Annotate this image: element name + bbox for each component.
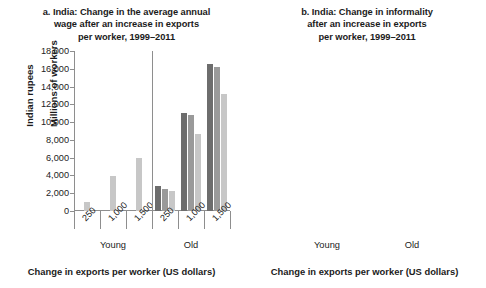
panel-b-y-axis-label: Millions of workers [48,26,59,142]
panel-a-y-tick [70,140,74,141]
panel-b-title-line-1: b. India: Change in informality [253,6,481,18]
bar-mid-old-1000 [188,115,194,211]
figure-container: a. India: Change in the average annual w… [0,0,486,288]
panel-a-group-label-old: Old [152,240,230,250]
panel-a-y-axis-line [74,51,75,211]
panel-a-y-tick-label: 2,000 [46,188,69,198]
panel-a-y-tick-label: 4,000 [46,170,69,180]
panel-a-y-axis-label: Indian rupees [24,41,35,151]
panel-a-y-tick [70,193,74,194]
chart-panel-a: a. India: Change in the average annual w… [0,0,243,288]
chart-panel-b: b. India: Change in informality after an… [243,0,486,288]
panel-a-title-line-1: a. India: Change in the average annual [14,6,239,18]
panel-a-y-tick [70,104,74,105]
panel-a-x-tick-end [230,211,231,229]
panel-b-group-label-young: Young [288,240,366,250]
panel-a-x-tick [100,211,101,229]
panel-a-x-tick [74,211,75,229]
panel-a-x-tick [126,211,127,229]
bar-light-young-1500 [136,158,142,211]
panel-a-y-tick [70,51,74,52]
bar-mid-old-1500 [214,67,220,211]
panel-a-y-tick-label: 6,000 [46,153,69,163]
panel-b-x-axis-title: Change in exports per worker (US dollars… [243,266,486,277]
panel-b-title-line-2: after an increase in exports [253,18,481,30]
panel-a-y-tick [70,122,74,123]
panel-b-group-label-old: Old [373,240,451,250]
panel-b-title-line-3: per worker, 1999–2011 [253,31,481,43]
panel-a-x-tick [178,211,179,229]
panel-b-title: b. India: Change in informality after an… [253,6,481,43]
panel-a-y-tick-label: 0 [64,206,69,216]
panel-a-y-tick [70,175,74,176]
panel-a-x-axis-title: Change in exports per worker (US dollars… [0,266,243,277]
bar-dark-old-1000 [181,113,187,211]
bar-light-old-1500 [221,94,227,211]
panel-a-group-label-young: Young [74,240,152,250]
panel-a-y-tick [70,69,74,70]
panel-a-y-tick [70,87,74,88]
bar-dark-old-250 [155,186,161,211]
panel-a-group-separator [152,51,153,229]
panel-a-x-tick [204,211,205,229]
bar-dark-old-1500 [207,64,213,211]
panel-a-y-tick [70,158,74,159]
